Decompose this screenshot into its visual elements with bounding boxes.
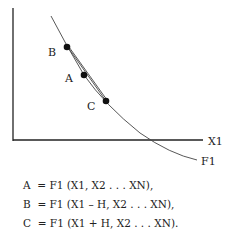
- secant-line-b-c-2: [69, 47, 107, 100]
- equation-a: A = F1 (X1, X2 . . . XN),: [23, 176, 178, 195]
- point-b-label: B: [48, 46, 56, 59]
- curve-label: F1: [201, 155, 216, 168]
- x-axis-label: X1: [208, 135, 223, 148]
- point-c: [103, 98, 110, 105]
- point-b: [64, 44, 71, 51]
- curve-f1: [51, 16, 197, 160]
- equation-c: C = F1 (X1 + H, X2 . . . XN).: [23, 214, 178, 233]
- equation-b: B = F1 (X1 – H, X2 . . . XN),: [23, 195, 178, 214]
- point-a-label: A: [64, 72, 74, 85]
- point-a: [81, 72, 88, 79]
- equations: A = F1 (X1, X2 . . . XN), B = F1 (X1 – H…: [23, 176, 178, 233]
- point-c-label: C: [87, 100, 95, 113]
